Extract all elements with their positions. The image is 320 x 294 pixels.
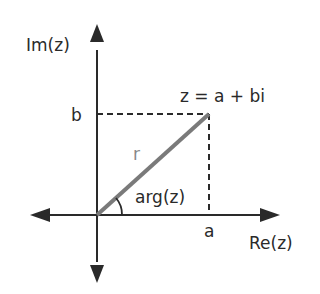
imaginary-axis-label: Im(z) [26, 35, 70, 55]
up-arrow-icon [90, 24, 104, 42]
argument-arc [116, 198, 122, 215]
point-label: z = a + bi [180, 86, 265, 106]
right-arrow-icon [260, 208, 280, 222]
down-arrow-icon [90, 265, 104, 283]
complex-plane-diagram: Im(z) Re(z) z = a + bi b a r arg(z) [0, 0, 320, 294]
modulus-label: r [133, 144, 140, 164]
argument-label: arg(z) [135, 187, 185, 207]
real-component-label: a [204, 221, 214, 241]
imaginary-axis [90, 24, 104, 283]
imag-component-label: b [71, 105, 82, 125]
left-arrow-icon [30, 208, 50, 222]
real-axis-label: Re(z) [249, 233, 293, 253]
real-axis [30, 208, 280, 222]
